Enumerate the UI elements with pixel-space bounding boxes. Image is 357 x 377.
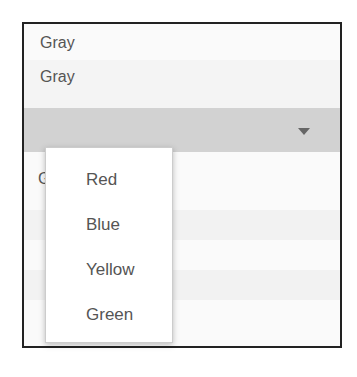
color-label-1: Gray bbox=[40, 34, 75, 52]
color-label-2: Gray bbox=[40, 68, 75, 86]
menu-item-red[interactable]: Red bbox=[46, 160, 172, 200]
menu-item-blue[interactable]: Blue bbox=[46, 205, 172, 245]
color-select[interactable] bbox=[24, 108, 340, 152]
settings-panel: Gray Gray G Red Blue Yellow Green bbox=[22, 22, 342, 348]
dropdown-menu: Red Blue Yellow Green bbox=[45, 147, 173, 343]
menu-item-green[interactable]: Green bbox=[46, 295, 172, 335]
menu-item-yellow[interactable]: Yellow bbox=[46, 250, 172, 290]
caret-down-icon[interactable] bbox=[298, 128, 310, 135]
